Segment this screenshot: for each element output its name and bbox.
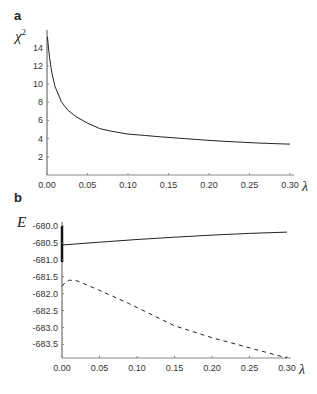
x-axis-label: λ — [298, 362, 305, 377]
chart-b: 0.000.050.100.150.200.250.30λ-680.0-680.… — [0, 0, 317, 394]
y-tick-label: -683.5 — [32, 339, 58, 349]
x-tick-label: 0.20 — [203, 363, 221, 373]
y-tick-label: -682.0 — [32, 289, 58, 299]
series-line-upper — [62, 232, 287, 245]
x-tick-label: 0.10 — [128, 363, 146, 373]
x-tick-label: 0.25 — [241, 363, 259, 373]
y-tick-label: -680.0 — [32, 221, 58, 231]
y-tick-label: -681.0 — [32, 255, 58, 265]
x-tick-label: 0.15 — [166, 363, 184, 373]
series-line-lower — [62, 280, 287, 358]
y-tick-label: -681.5 — [32, 272, 58, 282]
y-tick-label: -682.5 — [32, 306, 58, 316]
x-tick-label: 0.05 — [91, 363, 109, 373]
x-tick-label: 0.30 — [278, 363, 296, 373]
y-tick-label: -683.0 — [32, 323, 58, 333]
y-tick-label: -680.5 — [32, 238, 58, 248]
x-tick-label: 0.00 — [53, 363, 71, 373]
